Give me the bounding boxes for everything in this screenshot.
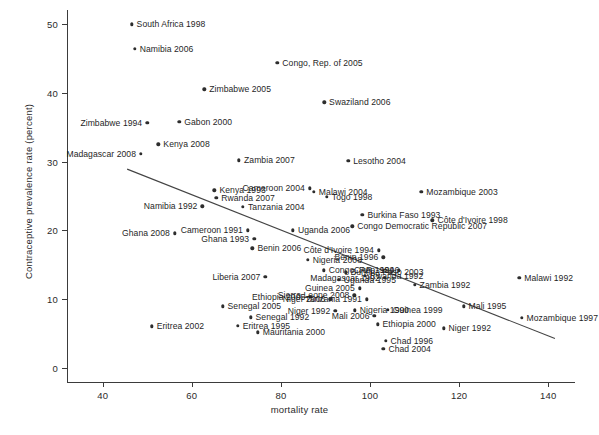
data-point-label: Mali 2006 xyxy=(332,311,370,321)
data-point-label: Uganda 2006 xyxy=(298,225,350,235)
data-point-marker[interactable] xyxy=(308,187,311,190)
data-point-marker[interactable] xyxy=(361,213,364,216)
data-point-marker[interactable] xyxy=(150,324,153,327)
data-point-marker[interactable] xyxy=(518,276,521,279)
data-point-label: Senegal 2005 xyxy=(228,301,282,311)
data-point-marker[interactable] xyxy=(139,152,142,155)
x-tick-mark xyxy=(103,382,104,387)
data-point-label: Niger 2006 xyxy=(283,294,326,304)
data-point-marker[interactable] xyxy=(173,231,176,234)
data-point-marker[interactable] xyxy=(133,47,136,50)
data-point-label: Ethiopia 2000 xyxy=(383,319,436,329)
data-point-marker[interactable] xyxy=(221,305,224,308)
data-point-label: Malawi 1992 xyxy=(524,273,573,283)
x-tick-mark xyxy=(281,382,282,387)
data-point-label: Benin 2006 xyxy=(257,243,301,253)
data-point-label: South Africa 1998 xyxy=(137,19,206,29)
data-point-marker[interactable] xyxy=(264,275,267,278)
data-point-marker[interactable] xyxy=(382,256,385,259)
data-point-marker[interactable] xyxy=(130,23,133,26)
data-point-marker[interactable] xyxy=(146,121,149,124)
data-point-marker[interactable] xyxy=(291,229,294,232)
data-point-marker[interactable] xyxy=(251,247,254,250)
data-point-label: Congo Democratic Republic 2007 xyxy=(357,221,487,231)
data-point-label: Congo, Rep. of 2005 xyxy=(282,58,362,68)
x-tick-label: 120 xyxy=(451,390,467,401)
data-point-marker[interactable] xyxy=(312,190,315,193)
x-tick-label: 80 xyxy=(275,390,286,401)
data-point-marker[interactable] xyxy=(325,195,328,198)
data-point-marker[interactable] xyxy=(322,101,325,104)
data-point-marker[interactable] xyxy=(420,190,423,193)
data-point-marker[interactable] xyxy=(306,258,309,261)
data-point-marker[interactable] xyxy=(215,196,218,199)
data-point-marker[interactable] xyxy=(373,314,376,317)
data-point-marker[interactable] xyxy=(252,237,255,240)
x-tick-label: 40 xyxy=(97,390,108,401)
data-point-marker[interactable] xyxy=(382,347,385,350)
data-point-marker[interactable] xyxy=(376,322,379,325)
x-tick-label: 140 xyxy=(540,390,556,401)
data-point-marker[interactable] xyxy=(256,331,259,334)
data-point-marker[interactable] xyxy=(413,283,416,286)
data-point-marker[interactable] xyxy=(246,229,249,232)
data-point-marker[interactable] xyxy=(346,159,349,162)
y-axis-line xyxy=(67,10,68,382)
scatter-plot-figure: 01020304050 406080100120140 Contraceptiv… xyxy=(0,0,599,435)
y-tick-label: 50 xyxy=(28,18,58,29)
data-point-label: Burkina Faso 1993 xyxy=(367,210,440,220)
data-point-marker[interactable] xyxy=(384,339,387,342)
data-point-marker[interactable] xyxy=(236,324,239,327)
data-point-marker[interactable] xyxy=(365,298,368,301)
data-point-marker[interactable] xyxy=(322,269,325,272)
data-point-label: Mozambique 1997 xyxy=(527,313,598,323)
x-tick-mark xyxy=(459,382,460,387)
data-point-label: Mali 1995 xyxy=(469,301,507,311)
data-point-label: Togo 1998 xyxy=(332,192,373,202)
x-tick-mark xyxy=(548,382,549,387)
data-point-label: Niger 1992 xyxy=(449,323,492,333)
data-point-label: Ghana 2008 xyxy=(122,228,170,238)
data-point-label: Lesotho 2004 xyxy=(353,156,406,166)
data-point-label: Mauritania 2000 xyxy=(263,327,325,337)
data-point-label: Zimbabwe 1994 xyxy=(80,118,142,128)
x-tick-label: 60 xyxy=(186,390,197,401)
data-point-marker[interactable] xyxy=(157,143,160,146)
data-point-label: Benin 1996 xyxy=(334,252,378,262)
data-point-marker[interactable] xyxy=(276,61,279,64)
data-point-marker[interactable] xyxy=(462,305,465,308)
data-point-marker[interactable] xyxy=(237,158,240,161)
y-axis-title: Contraceptive prevalence rate (percent) xyxy=(23,32,34,352)
x-axis-title: mortality rate xyxy=(0,404,599,415)
data-point-label: Kenya 2008 xyxy=(163,139,209,149)
x-tick-mark xyxy=(370,382,371,387)
y-tick-mark xyxy=(62,162,67,163)
x-tick-mark xyxy=(192,382,193,387)
data-point-label: Liberia 2007 xyxy=(212,272,260,282)
data-point-label: Chad 2004 xyxy=(388,344,431,354)
data-point-marker[interactable] xyxy=(520,316,523,319)
data-point-marker[interactable] xyxy=(241,205,244,208)
data-point-label: Mozambique 2003 xyxy=(426,187,497,197)
y-tick-mark xyxy=(62,24,67,25)
y-tick-mark xyxy=(62,93,67,94)
y-tick-label: 0 xyxy=(28,363,58,374)
data-point-label: Zimbabwe 2005 xyxy=(209,84,271,94)
data-point-label: Swaziland 2006 xyxy=(329,97,390,107)
data-point-label: Madagascar 2008 xyxy=(66,149,136,159)
data-point-marker[interactable] xyxy=(358,287,361,290)
data-point-marker[interactable] xyxy=(249,316,252,319)
data-point-marker[interactable] xyxy=(178,120,181,123)
x-tick-label: 100 xyxy=(362,390,378,401)
data-point-label: Eritrea 2002 xyxy=(157,321,204,331)
data-point-label: Tanzania 2004 xyxy=(248,202,305,212)
data-point-label: Gabon 2000 xyxy=(184,117,232,127)
y-tick-mark xyxy=(62,368,67,369)
data-point-marker[interactable] xyxy=(442,327,445,330)
data-point-marker[interactable] xyxy=(213,189,216,192)
data-point-marker[interactable] xyxy=(203,88,206,91)
data-point-marker[interactable] xyxy=(350,225,353,228)
data-point-marker[interactable] xyxy=(201,205,204,208)
data-point-label: Namibia 1992 xyxy=(144,201,198,211)
data-point-label: Zambia 2007 xyxy=(244,155,295,165)
